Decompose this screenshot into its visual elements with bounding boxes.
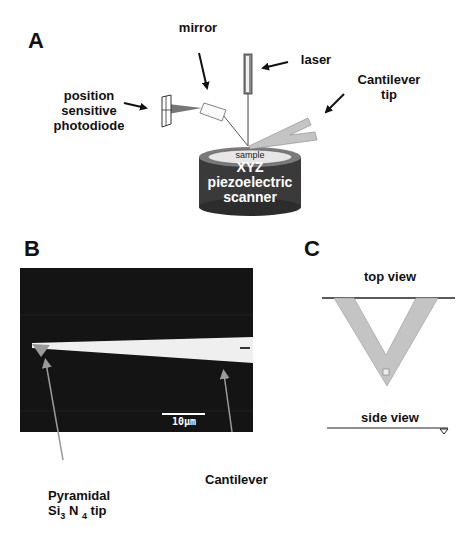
panel-c-drawing <box>0 0 473 534</box>
top-view-tip-icon <box>383 369 389 375</box>
side-view-tip-icon <box>440 429 448 434</box>
label-side-view: side view <box>348 410 432 425</box>
